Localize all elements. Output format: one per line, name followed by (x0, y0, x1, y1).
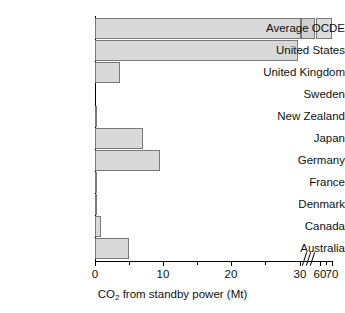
x-tick-label: 0 (92, 268, 98, 281)
x-axis-line (95, 261, 332, 262)
x-axis-title-subscript: 2 (115, 293, 119, 302)
x-tick-label: 10 (157, 268, 170, 281)
axis-break-icon (303, 252, 317, 266)
bar-segment (95, 238, 129, 259)
category-label: Australia (253, 242, 345, 254)
category-label: New Zealand (253, 110, 345, 122)
bar-segment (95, 106, 97, 127)
bar-segment (95, 150, 160, 171)
category-label: United Kingdom (253, 66, 345, 78)
x-tick-mark (95, 261, 96, 266)
category-label: Average OCDE (253, 22, 345, 34)
category-label: Japan (253, 132, 345, 144)
bar-segment (95, 194, 97, 215)
x-tick-mark-minor (197, 261, 198, 265)
category-label: Canada (253, 220, 345, 232)
bar-segment (95, 172, 97, 193)
x-tick-mark-minor (129, 261, 130, 265)
category-label: United States (253, 44, 345, 56)
x-axis-title-suffix: from standby power (Mt) (119, 288, 247, 300)
category-label: Germany (253, 154, 345, 166)
bar-segment (95, 128, 143, 149)
bar-segment (95, 216, 101, 237)
x-tick-label: 30 (294, 268, 307, 281)
x-tick-label: 20 (225, 268, 238, 281)
x-tick-mark (163, 261, 164, 266)
bar-segment (95, 62, 120, 83)
co2-standby-power-bar-chart: Average OCDEUnited StatesUnited KingdomS… (0, 0, 345, 313)
x-tick-mark-minor (265, 261, 266, 265)
x-tick-mark (231, 261, 232, 266)
x-tick-mark-minor (326, 261, 327, 265)
x-tick-label: 70 (326, 268, 339, 281)
category-label: Denmark (253, 198, 345, 210)
x-tick-mark (332, 261, 333, 266)
x-axis-title-prefix: CO (98, 288, 115, 300)
x-tick-mark (320, 261, 321, 266)
category-label: Sweden (253, 88, 345, 100)
category-label: France (253, 176, 345, 188)
x-tick-label: 60 (314, 268, 327, 281)
x-axis-title: CO2 from standby power (Mt) (0, 288, 345, 300)
